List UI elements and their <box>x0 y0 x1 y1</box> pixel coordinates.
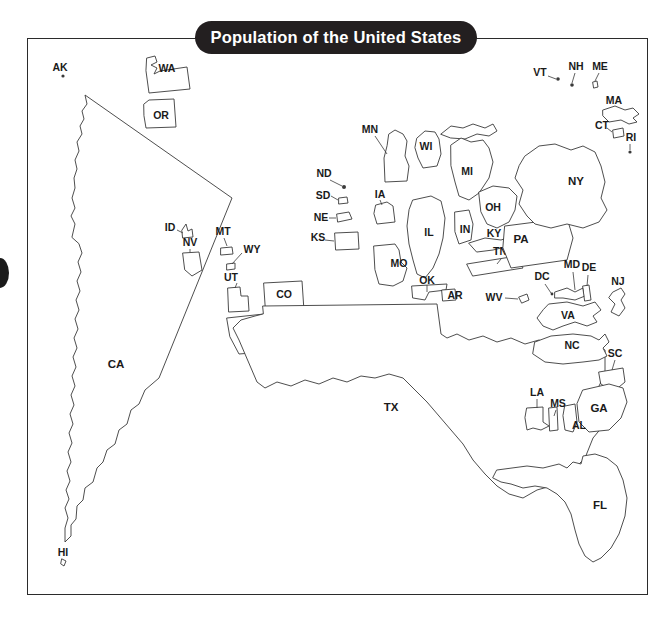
state-label-id: ID <box>165 221 176 233</box>
state-shape-dc <box>551 293 554 296</box>
state-shape-nh <box>570 83 574 87</box>
state-shape-mn <box>384 130 409 182</box>
state-label-mi: MI <box>461 165 473 177</box>
state-label-vt: VT <box>533 66 547 78</box>
state-shape-wy <box>227 263 235 270</box>
state-label-nh: NH <box>568 60 583 72</box>
state-label-fl: FL <box>593 499 607 511</box>
leader-wy <box>232 253 242 264</box>
state-label-ut: UT <box>224 271 239 283</box>
state-label-nj: NJ <box>611 275 625 287</box>
state-shape-ne <box>337 212 352 222</box>
leader-wv <box>505 298 518 299</box>
state-shape-nj <box>609 288 625 316</box>
state-label-hi: HI <box>58 546 69 558</box>
state-shape-vt <box>556 77 560 81</box>
state-shape-de <box>583 285 591 301</box>
state-label-wa: WA <box>159 62 176 74</box>
state-label-sc: SC <box>608 347 623 359</box>
leader-md <box>573 272 575 290</box>
state-label-or: OR <box>153 109 169 121</box>
title-banner: Population of the United States <box>195 21 477 54</box>
leader-me <box>595 73 599 81</box>
state-label-ma: MA <box>606 94 623 106</box>
state-shape-md <box>555 288 585 300</box>
leader-sc <box>612 360 615 370</box>
leader-mt <box>224 238 227 246</box>
state-label-ga: GA <box>590 402 607 414</box>
state-label-ri: RI <box>626 131 637 143</box>
state-label-oh: OH <box>485 201 501 213</box>
leader-dc <box>545 284 551 293</box>
state-label-ky: KY <box>487 227 502 239</box>
state-shape-hi <box>61 559 66 566</box>
state-shape-ct <box>613 128 624 138</box>
state-label-mt: MT <box>215 225 231 237</box>
state-label-ok: OK <box>419 274 435 286</box>
leader-nd <box>330 180 342 186</box>
state-label-tx: TX <box>384 401 399 413</box>
page-title: Population of the United States <box>211 28 462 47</box>
page-canvas: CA WA OR ID NV MT WY UT CO AZ <box>0 0 671 620</box>
state-shape-ri <box>628 150 631 153</box>
page-binding-mark <box>0 258 9 288</box>
state-label-ny: NY <box>568 175 584 187</box>
state-label-mn: MN <box>362 123 378 135</box>
state-shape-mt <box>221 247 233 255</box>
state-shape-ms <box>549 407 558 431</box>
state-label-nv: NV <box>183 236 198 248</box>
state-label-la: LA <box>530 386 544 398</box>
leader-sd <box>331 196 338 200</box>
state-label-md: MD <box>564 258 581 270</box>
state-shape-ks <box>335 232 359 250</box>
state-label-al: AL <box>572 419 587 431</box>
state-label-sd: SD <box>316 189 331 201</box>
state-label-dc: DC <box>534 270 550 282</box>
state-label-de: DE <box>582 261 597 273</box>
state-label-wv: WV <box>486 291 503 303</box>
leader-vt <box>548 76 556 79</box>
leader-ks <box>325 240 334 241</box>
state-shape-mi-up <box>441 124 497 139</box>
state-shape-ny <box>515 144 607 228</box>
state-label-ks: KS <box>311 231 326 243</box>
state-shape-wv <box>519 294 529 303</box>
state-label-me: ME <box>592 60 608 72</box>
state-label-co: CO <box>276 288 292 300</box>
state-shape-ak <box>61 74 64 77</box>
state-shape-sd <box>339 197 348 204</box>
us-population-cartogram: CA WA OR ID NV MT WY UT CO AZ <box>27 38 648 595</box>
state-shape-me <box>593 81 598 88</box>
state-shape-ia <box>374 202 395 224</box>
state-shape-ut <box>228 287 249 312</box>
state-label-ia: IA <box>375 188 386 200</box>
state-label-nd: ND <box>316 167 332 179</box>
state-label-pa: PA <box>513 233 528 245</box>
state-label-ca: CA <box>108 358 125 370</box>
state-label-mo: MO <box>391 257 408 269</box>
state-label-va: VA <box>561 309 575 321</box>
state-label-ar: AR <box>447 289 463 301</box>
state-label-ct: CT <box>595 119 610 131</box>
state-shape-nd <box>342 185 346 189</box>
state-label-il: IL <box>424 226 434 238</box>
leader-de <box>587 275 588 286</box>
state-label-wy: WY <box>244 243 261 255</box>
state-label-ak: AK <box>52 61 68 73</box>
state-label-nc: NC <box>564 339 580 351</box>
leader-mn <box>375 136 387 154</box>
state-shape-ca <box>65 95 232 542</box>
state-label-wi: WI <box>420 140 433 152</box>
state-label-ms: MS <box>550 397 566 409</box>
state-label-in: IN <box>460 223 471 235</box>
leader-nh <box>572 73 575 83</box>
state-label-ne: NE <box>314 211 329 223</box>
